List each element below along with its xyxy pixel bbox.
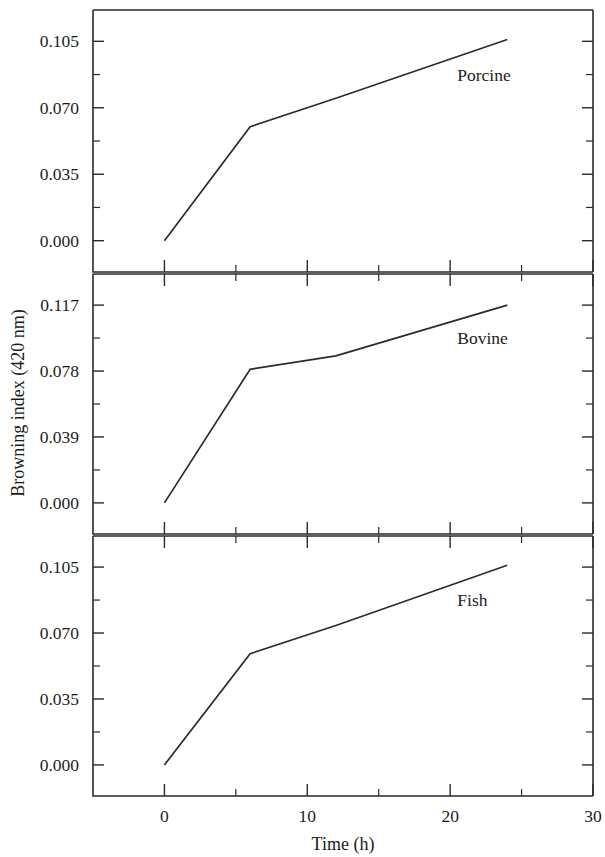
panel-label-fish: Fish [457, 590, 487, 610]
y-tick-label: 0.035 [40, 164, 80, 184]
x-tick-label: 0 [160, 806, 169, 826]
browning-index-figure: 0.0000.0350.0700.105Porcine0.0000.0390.0… [0, 0, 605, 857]
y-tick-label: 0.105 [40, 31, 80, 51]
y-axis-title: Browning index (420 nm) [8, 309, 29, 496]
y-tick-label: 0.035 [40, 689, 80, 709]
y-tick-label: 0.000 [40, 493, 80, 513]
x-axis-title: Time (h) [312, 834, 375, 855]
y-tick-label: 0.070 [40, 98, 80, 118]
data-line-bovine [164, 305, 507, 503]
data-line-porcine [164, 39, 507, 240]
panel-label-porcine: Porcine [457, 65, 511, 85]
x-tick-label: 20 [441, 806, 459, 826]
panel-porcine-axes [93, 10, 593, 272]
y-tick-label: 0.105 [40, 557, 80, 577]
y-tick-label: 0.039 [40, 427, 80, 447]
data-line-fish [164, 565, 507, 765]
y-tick-label: 0.078 [40, 361, 80, 381]
x-tick-label: 10 [299, 806, 317, 826]
x-tick-label: 30 [584, 806, 602, 826]
panel-label-bovine: Bovine [457, 328, 508, 348]
multi-panel-line-chart: 0.0000.0350.0700.105Porcine0.0000.0390.0… [0, 0, 605, 857]
y-tick-label: 0.000 [40, 231, 80, 251]
y-tick-label: 0.070 [40, 623, 80, 643]
panel-bovine-axes [93, 274, 593, 534]
y-tick-label: 0.000 [40, 755, 80, 775]
panel-fish-axes [93, 536, 593, 796]
y-tick-label: 0.117 [40, 295, 79, 315]
